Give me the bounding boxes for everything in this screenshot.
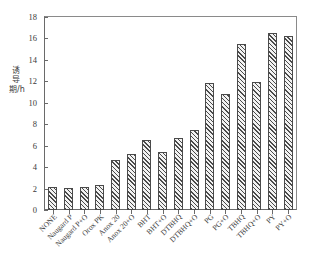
bar[interactable] [158,152,167,210]
bar-slot [155,17,171,210]
y-tick-mark [44,60,48,61]
bar-slot [233,17,249,210]
bar[interactable] [48,187,57,210]
bar-slot [123,17,139,210]
bar[interactable] [95,185,104,210]
y-tick-label: 6 [33,141,37,150]
x-tick-mark [272,210,273,214]
x-tick-mark [241,210,242,214]
x-tick-mark [163,210,164,214]
bar-slot [218,17,234,210]
y-tick-mark [44,103,48,104]
bars-container [45,17,296,210]
bar[interactable] [221,94,230,210]
y-tick-mark [44,38,48,39]
bar[interactable] [111,160,120,210]
bar-slot [265,17,281,210]
bar[interactable] [190,130,199,210]
y-tick-label: 2 [33,184,37,193]
y-tick-label: 4 [33,163,37,172]
y-tick-label: 18 [29,13,38,22]
bar-slot [108,17,124,210]
bar-slot [45,17,61,210]
x-tick-mark [116,210,117,214]
x-tick-mark [131,210,132,214]
x-tick-mark [178,210,179,214]
x-tick-mark [194,210,195,214]
bar-slot [202,17,218,210]
y-tick-label: 12 [29,77,38,86]
y-tick-label: 10 [29,98,38,107]
y-tick-label: 14 [29,55,38,64]
bar-slot [280,17,296,210]
bar[interactable] [284,36,293,210]
bar-slot [249,17,265,210]
y-tick-mark [44,210,48,211]
y-tick-mark [44,146,48,147]
bar[interactable] [252,82,261,210]
bar[interactable] [174,138,183,210]
x-tick-mark [84,210,85,214]
bar[interactable] [237,44,246,210]
x-tick-mark [225,210,226,214]
y-tick-mark [44,17,48,18]
y-tick-label: 8 [33,120,37,129]
x-tick-mark [100,210,101,214]
bar-slot [171,17,187,210]
bar[interactable] [127,154,136,210]
y-tick-mark [44,81,48,82]
x-tick-mark [288,210,289,214]
x-tick-mark [257,210,258,214]
x-tick-mark [147,210,148,214]
y-tick-mark [44,189,48,190]
bar[interactable] [142,140,151,210]
bar[interactable] [205,83,214,210]
bar[interactable] [268,33,277,210]
x-tick-mark [210,210,211,214]
bar-slot [76,17,92,210]
y-tick-label: 16 [29,34,38,43]
induction-period-bar-chart: 诱导期/h 024681012141618 NONENaugard PNauga… [0,0,310,271]
x-tick-mark [53,210,54,214]
bar-slot [139,17,155,210]
x-tick-mark [69,210,70,214]
y-tick-label: 0 [33,206,37,215]
bar-slot [186,17,202,210]
bar-slot [92,17,108,210]
bar[interactable] [64,188,73,210]
y-tick-mark [44,124,48,125]
y-tick-mark [44,167,48,168]
bar[interactable] [80,187,89,210]
bar-slot [61,17,77,210]
